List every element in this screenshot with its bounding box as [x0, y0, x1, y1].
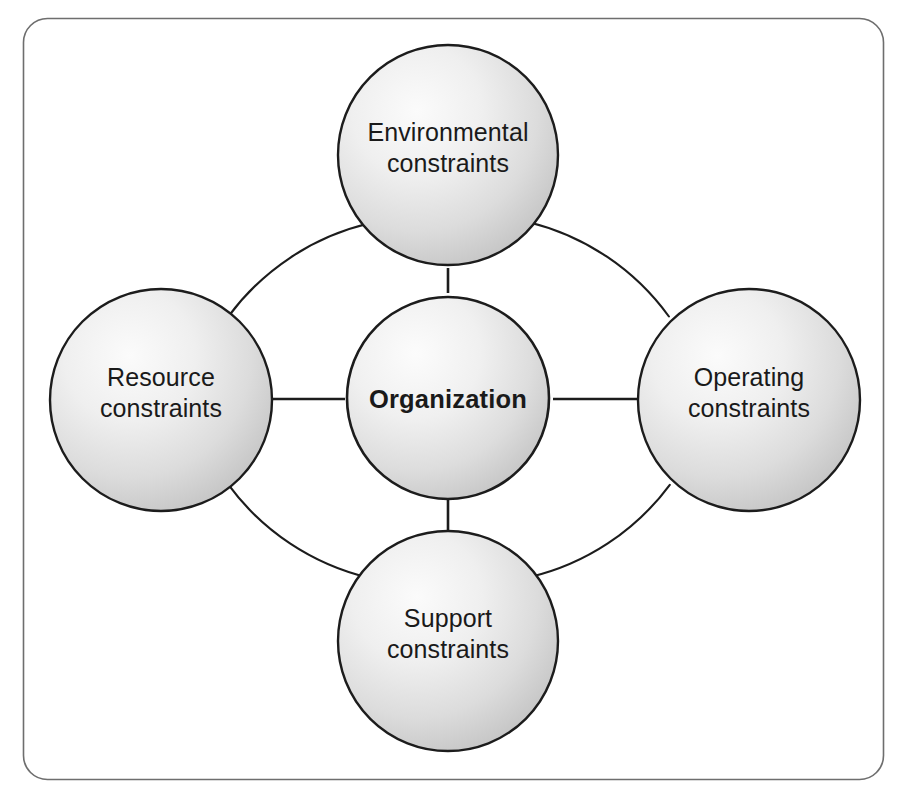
node-support-constraints[interactable] — [338, 531, 558, 751]
diagram-graphics — [0, 0, 902, 792]
node-resource-constraints[interactable] — [50, 289, 272, 511]
node-operating-constraints[interactable] — [638, 289, 860, 511]
node-environmental-constraints[interactable] — [338, 45, 558, 265]
node-organization[interactable] — [347, 297, 549, 499]
diagram-canvas: Environmental constraints Operating cons… — [0, 0, 902, 792]
